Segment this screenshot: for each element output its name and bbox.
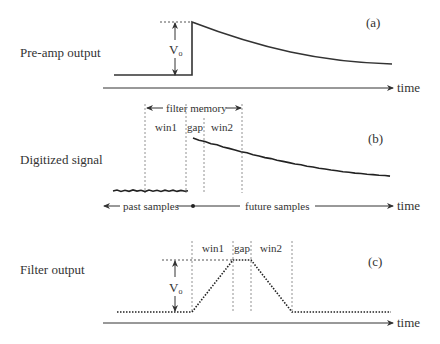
win2-label-c: win2 — [260, 242, 282, 254]
panel-a: Pre-amp output (a) Vo time — [20, 15, 420, 95]
pulse-filter-diagram: Pre-amp output (a) Vo time Digitized sig… — [0, 0, 440, 344]
filter-output-trapezoid — [117, 260, 391, 312]
digitized-baseline — [113, 190, 188, 192]
vo-label-a: Vo — [169, 42, 182, 58]
row-label-preamp: Pre-amp output — [20, 45, 101, 60]
panel-tag-b: (b) — [368, 131, 383, 146]
gap-label-c: gap — [234, 242, 250, 254]
gap-label-b: gap — [187, 121, 203, 133]
time-label-a: time — [397, 80, 420, 95]
panel-b: Digitized signal (b) filter memory win1 … — [20, 102, 420, 213]
row-label-digitized: Digitized signal — [20, 152, 103, 167]
win2-label-b: win2 — [211, 121, 233, 133]
time-label-b: time — [397, 198, 420, 213]
future-samples-label: future samples — [245, 200, 309, 212]
vo-label-c: Vo — [169, 280, 182, 296]
win1-label-b: win1 — [155, 121, 177, 133]
digitized-decay — [193, 138, 390, 176]
win1-label-c: win1 — [202, 242, 224, 254]
panel-tag-a: (a) — [366, 15, 380, 30]
panel-tag-c: (c) — [368, 254, 382, 269]
row-label-filter: Filter output — [20, 262, 85, 277]
past-samples-label: past samples — [123, 200, 179, 212]
preamp-signal — [114, 22, 392, 75]
panel-c: Filter output (c) win1 gap win2 Vo time — [20, 241, 420, 330]
time-label-c: time — [397, 315, 420, 330]
now-marker-icon — [191, 204, 195, 208]
filter-memory-label: filter memory — [166, 102, 227, 114]
